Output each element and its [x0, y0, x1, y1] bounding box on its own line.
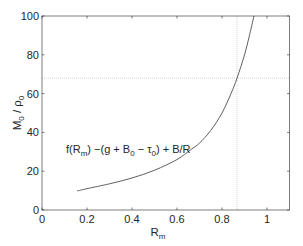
- y-tick-label: 80: [27, 49, 39, 61]
- y-tick-labels: 020406080100: [21, 10, 39, 216]
- y-tick-label: 40: [27, 126, 39, 138]
- x-tick-label: 0.8: [214, 213, 229, 225]
- x-axis-label: Rm: [151, 226, 166, 241]
- y-tick-label: 100: [21, 10, 39, 22]
- x-tick-label: 1: [264, 213, 270, 225]
- plot-frame: [42, 16, 290, 210]
- x-tick-label: 0: [39, 213, 45, 225]
- x-tick-label: 0.6: [169, 213, 184, 225]
- x-tick-label: 0.2: [79, 213, 94, 225]
- reference-lines: [42, 16, 290, 210]
- x-tick-label: 0.4: [124, 213, 139, 225]
- curve-annotation: f(Rm) −(g + B0 − τ0) + B/R: [66, 143, 191, 158]
- y-tick-label: 0: [33, 204, 39, 216]
- curve-layer: [77, 16, 254, 191]
- data-curve: [77, 16, 254, 191]
- tick-marks: [42, 16, 290, 210]
- y-tick-label: 60: [27, 88, 39, 100]
- y-tick-label: 20: [27, 165, 39, 177]
- chart: 00.20.40.60.81 020406080100 Rm M0 / ρ0 f…: [0, 0, 303, 246]
- x-tick-labels: 00.20.40.60.81: [39, 213, 270, 225]
- axes-box: [42, 16, 290, 210]
- y-axis-label: M0 / ρ0: [11, 95, 26, 130]
